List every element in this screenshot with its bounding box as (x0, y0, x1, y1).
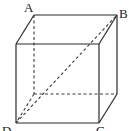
edge-top-left (16, 15, 34, 44)
label-c: C (96, 123, 105, 131)
edge-top-right (99, 15, 117, 44)
hidden-edge-bottom-left (16, 94, 34, 123)
label-d: D (2, 123, 11, 131)
diagonal-db (16, 15, 117, 123)
label-b: B (119, 6, 128, 21)
edge-bottom-right (99, 94, 117, 123)
cube-diagram: A B D C (0, 0, 132, 131)
label-a: A (24, 0, 34, 15)
